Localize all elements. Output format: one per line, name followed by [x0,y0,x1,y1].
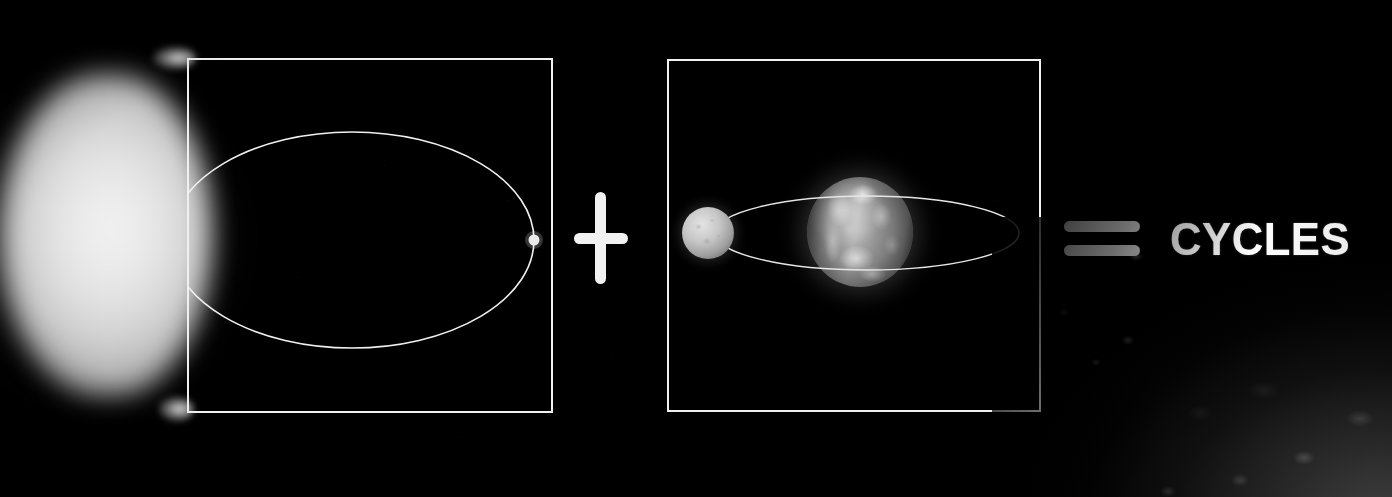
panel-earth-moon[interactable] [667,59,1041,412]
moon-body [682,207,734,259]
equals-icon [1064,221,1140,259]
elliptical-orbit-path [187,132,534,348]
plus-icon [574,192,628,284]
elliptical-orbit-svg [189,60,551,411]
orbiting-planet-body [529,235,540,246]
panel-starfield-noise [189,60,551,411]
earth-body [807,177,913,287]
scene-stage: CYCLES [0,0,1392,497]
moon-craters [682,207,734,259]
panel-star-planet[interactable] [187,58,553,413]
equals-icon-bottom-bar [1064,245,1140,256]
star-body [0,74,212,396]
earth-terminator-shadow [807,177,913,287]
equals-icon-top-bar [1064,221,1140,232]
plus-icon-vertical-bar [595,192,606,284]
orbiting-planet-glow [525,231,543,249]
result-label: CYCLES [1170,215,1350,262]
